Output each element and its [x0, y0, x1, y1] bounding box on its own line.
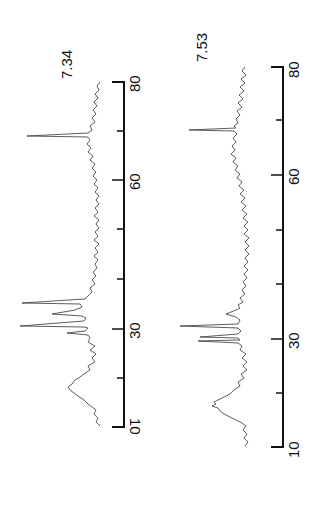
sample-label-1: 7.34: [58, 50, 75, 79]
tick-label-80: 80: [126, 75, 143, 92]
tick-label-30: 30: [285, 332, 302, 349]
trace-7-34: [20, 82, 100, 426]
xrd-figure: 7.34 80 60 30 10 7.53 80 60 30 10: [0, 0, 319, 509]
panel-7-34: 7.34 80 60 30 10: [20, 50, 144, 435]
tick-label-60: 60: [126, 173, 143, 190]
sample-label-2: 7.53: [193, 33, 210, 62]
tick-label-60: 60: [285, 168, 302, 185]
trace-7-53: [180, 67, 249, 446]
tick-label-10: 10: [127, 418, 144, 435]
tick-label-10: 10: [285, 441, 302, 458]
tick-label-30: 30: [126, 322, 143, 339]
tick-label-80: 80: [285, 61, 302, 78]
panel-7-53: 7.53 80 60 30 10: [180, 33, 302, 458]
